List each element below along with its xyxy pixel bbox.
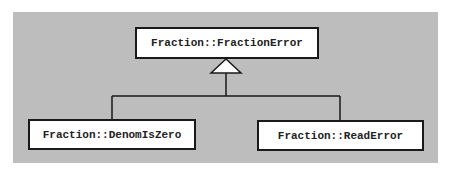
derived-class-label: Fraction::DenomIsZero: [43, 129, 182, 141]
derived-class-box-denom-is-zero: Fraction::DenomIsZero: [28, 119, 196, 150]
derived-class-box-read-error: Fraction::ReadError: [257, 120, 424, 151]
derived-class-label: Fraction::ReadError: [278, 130, 403, 142]
base-class-box: Fraction::FractionError: [135, 27, 319, 59]
base-class-label: Fraction::FractionError: [151, 37, 303, 49]
generalization-arrowhead-icon: [211, 59, 241, 73]
